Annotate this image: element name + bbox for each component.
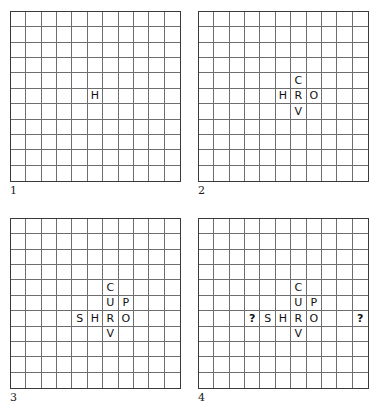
grid-cell-empty[interactable] (199, 311, 214, 326)
grid-cell-empty[interactable] (149, 342, 164, 357)
grid-cell-empty[interactable] (276, 135, 291, 150)
grid-cell-empty[interactable] (119, 135, 134, 150)
grid-cell-empty[interactable] (245, 135, 260, 150)
grid-cell-empty[interactable] (57, 43, 72, 58)
grid-cell-empty[interactable] (260, 150, 275, 165)
grid-cell-empty[interactable] (57, 27, 72, 42)
grid-cell-empty[interactable] (291, 12, 306, 27)
grid-cell-empty[interactable] (214, 27, 229, 42)
grid-cell-empty[interactable] (230, 89, 245, 104)
grid-cell-empty[interactable] (26, 327, 41, 342)
grid-cell-empty[interactable] (260, 43, 275, 58)
grid-cell-empty[interactable] (214, 327, 229, 342)
grid-cell-empty[interactable] (165, 311, 180, 326)
grid-cell-empty[interactable] (103, 265, 118, 280)
grid-cell-empty[interactable] (199, 265, 214, 280)
grid-cell-empty[interactable] (134, 135, 149, 150)
grid-cell-empty[interactable] (103, 342, 118, 357)
grid-cell-empty[interactable] (353, 296, 368, 311)
grid-cell-empty[interactable] (26, 357, 41, 372)
grid-cell-empty[interactable] (134, 150, 149, 165)
grid-cell-empty[interactable] (72, 296, 87, 311)
grid-cell-empty[interactable] (260, 373, 275, 388)
grid-cell-empty[interactable] (57, 150, 72, 165)
grid-cell-empty[interactable] (26, 311, 41, 326)
grid-cell-empty[interactable] (149, 311, 164, 326)
grid-cell-empty[interactable] (230, 12, 245, 27)
grid-cell-empty[interactable] (230, 342, 245, 357)
grid-cell-empty[interactable] (42, 89, 57, 104)
grid-cell-empty[interactable] (214, 166, 229, 181)
grid-cell-empty[interactable] (322, 357, 337, 372)
grid-cell-empty[interactable] (322, 219, 337, 234)
grid-cell-empty[interactable] (307, 73, 322, 88)
grid-cell-empty[interactable] (230, 150, 245, 165)
grid-cell-empty[interactable] (88, 104, 103, 119)
grid-cell-empty[interactable] (103, 150, 118, 165)
grid-cell-empty[interactable] (291, 27, 306, 42)
grid-cell-question[interactable]: ? (353, 311, 368, 326)
grid-cell-empty[interactable] (72, 250, 87, 265)
grid-cell-empty[interactable] (291, 120, 306, 135)
grid-cell-empty[interactable] (26, 27, 41, 42)
grid-cell-empty[interactable] (214, 120, 229, 135)
grid-cell-empty[interactable] (307, 357, 322, 372)
grid-cell-empty[interactable] (214, 104, 229, 119)
grid-cell-empty[interactable] (230, 280, 245, 295)
grid-cell-empty[interactable] (72, 73, 87, 88)
grid-cell-empty[interactable] (149, 250, 164, 265)
grid-cell-empty[interactable] (119, 166, 134, 181)
grid-cell-empty[interactable] (230, 58, 245, 73)
grid-cell-letter[interactable]: O (119, 311, 134, 326)
grid-cell-empty[interactable] (260, 104, 275, 119)
grid-cell-empty[interactable] (134, 12, 149, 27)
grid-cell-empty[interactable] (322, 43, 337, 58)
grid-cell-empty[interactable] (57, 265, 72, 280)
grid-cell-empty[interactable] (291, 219, 306, 234)
grid-cell-empty[interactable] (11, 104, 26, 119)
grid-cell-empty[interactable] (276, 104, 291, 119)
grid-cell-empty[interactable] (230, 135, 245, 150)
grid-cell-empty[interactable] (134, 234, 149, 249)
grid-cell-empty[interactable] (134, 89, 149, 104)
grid-cell-empty[interactable] (72, 166, 87, 181)
grid-cell-empty[interactable] (57, 120, 72, 135)
grid-cell-empty[interactable] (26, 280, 41, 295)
grid-cell-empty[interactable] (353, 120, 368, 135)
grid-cell-empty[interactable] (199, 120, 214, 135)
grid-cell-empty[interactable] (260, 219, 275, 234)
grid-cell-empty[interactable] (149, 166, 164, 181)
grid-cell-empty[interactable] (72, 373, 87, 388)
grid-cell-empty[interactable] (199, 373, 214, 388)
grid-cell-letter[interactable]: V (291, 327, 306, 342)
grid-cell-empty[interactable] (245, 166, 260, 181)
grid-cell-empty[interactable] (57, 280, 72, 295)
grid-cell-empty[interactable] (149, 357, 164, 372)
grid-cell-empty[interactable] (353, 280, 368, 295)
grid-cell-empty[interactable] (260, 265, 275, 280)
grid-cell-empty[interactable] (214, 43, 229, 58)
grid-cell-empty[interactable] (322, 120, 337, 135)
grid-cell-empty[interactable] (230, 219, 245, 234)
grid-cell-empty[interactable] (119, 357, 134, 372)
grid-cell-empty[interactable] (165, 89, 180, 104)
grid-cell-empty[interactable] (230, 234, 245, 249)
grid-cell-empty[interactable] (214, 311, 229, 326)
grid-cell-empty[interactable] (26, 265, 41, 280)
grid-cell-empty[interactable] (245, 296, 260, 311)
grid-cell-empty[interactable] (230, 166, 245, 181)
grid-cell-empty[interactable] (199, 27, 214, 42)
grid-cell-empty[interactable] (149, 89, 164, 104)
grid-cell-empty[interactable] (276, 342, 291, 357)
grid-cell-empty[interactable] (276, 73, 291, 88)
grid-cell-empty[interactable] (337, 27, 352, 42)
grid-cell-empty[interactable] (165, 120, 180, 135)
grid-cell-empty[interactable] (57, 135, 72, 150)
grid-cell-empty[interactable] (149, 219, 164, 234)
grid-cell-empty[interactable] (57, 166, 72, 181)
grid-cell-empty[interactable] (134, 166, 149, 181)
grid-cell-empty[interactable] (307, 120, 322, 135)
grid-cell-empty[interactable] (214, 373, 229, 388)
grid-cell-empty[interactable] (199, 280, 214, 295)
grid-cell-empty[interactable] (72, 58, 87, 73)
